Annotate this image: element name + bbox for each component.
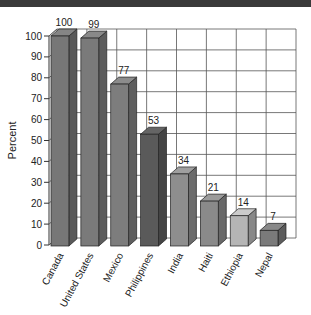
bar-philippines: 53 [141, 115, 167, 246]
y-tick-label: 50 [31, 135, 43, 146]
x-tick-label: Mexico [101, 250, 126, 284]
bar-chart: 0102030405060708090100Percent10099775334… [0, 0, 311, 315]
data-label: 99 [88, 19, 100, 30]
data-label: 53 [148, 115, 160, 126]
x-tick-label: India [165, 250, 185, 275]
bar-mexico: 77 [111, 65, 137, 246]
bar-united-states: 99 [81, 19, 107, 246]
y-tick-label: 30 [31, 177, 43, 188]
y-tick-label: 20 [31, 198, 43, 209]
y-tick-label: 100 [25, 31, 42, 42]
bar-ethiopia: 14 [230, 197, 256, 246]
data-label: 21 [208, 182, 220, 193]
y-tick-label: 80 [31, 72, 43, 83]
y-axis-title: Percent [6, 122, 18, 160]
y-tick-label: 10 [31, 219, 43, 230]
data-label: 100 [56, 17, 73, 28]
y-tick-label: 60 [31, 114, 43, 125]
x-tick-label: Canada [40, 250, 66, 286]
x-tick-label: Philippines [123, 251, 155, 299]
y-tick-label: 90 [31, 51, 43, 62]
data-label: 14 [238, 197, 250, 208]
x-tick-label: Ethiopia [218, 250, 245, 287]
bar-haiti: 21 [200, 182, 226, 246]
bars: 1009977533421147 [51, 17, 286, 246]
data-label: 77 [118, 65, 130, 76]
x-tick-label: Nepal [253, 251, 275, 279]
bar-canada: 100 [51, 17, 77, 246]
bar-nepal: 7 [260, 211, 286, 246]
y-tick-label: 0 [36, 240, 42, 251]
bar-india: 34 [171, 155, 197, 246]
data-label: 34 [178, 155, 190, 166]
x-tick-label: Haiti [196, 251, 215, 274]
x-axis-labels: CanadaUnited StatesMexicoPhilippinesIndi… [40, 250, 275, 309]
data-label: 7 [270, 211, 276, 222]
y-tick-label: 70 [31, 93, 43, 104]
y-tick-label: 40 [31, 156, 43, 167]
